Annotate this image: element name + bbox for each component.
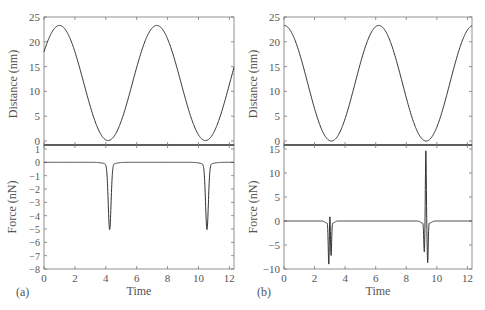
x-tick-label: 0 — [41, 272, 47, 284]
y-tick-label: 15 — [269, 143, 281, 155]
distance-axes-frame — [44, 17, 234, 145]
x-tick-label: 12 — [224, 272, 235, 284]
y-tick-label: 0 — [275, 215, 281, 227]
y-tick-label: 1 — [35, 144, 40, 155]
panel-label: (b) — [257, 285, 271, 299]
panel-a: 024681012051015202510−1−2−3−4−5−6−7−8Dis… — [5, 11, 235, 299]
distance-curve — [44, 25, 234, 140]
distance-axis-label: Distance (nm) — [6, 50, 20, 118]
y-tick-label: −3 — [29, 197, 40, 208]
time-axis-label: Time — [127, 284, 152, 298]
x-tick-label: 10 — [431, 272, 443, 284]
x-tick-label: 4 — [342, 272, 348, 284]
panel-label: (a) — [16, 285, 29, 299]
figure: 024681012051015202510−1−2−3−4−5−6−7−8Dis… — [0, 0, 485, 310]
y-tick-label: −2 — [29, 184, 40, 195]
x-tick-label: 8 — [165, 272, 171, 284]
y-tick-label: 5 — [35, 110, 41, 122]
x-tick-label: 0 — [281, 272, 287, 284]
y-tick-label: −1 — [29, 171, 40, 182]
y-tick-label: −5 — [29, 224, 40, 235]
y-tick-label: 0 — [35, 157, 40, 168]
distance-curve — [284, 25, 472, 141]
x-tick-label: 8 — [404, 272, 410, 284]
y-tick-label: −4 — [29, 211, 40, 222]
y-tick-label: −6 — [29, 237, 40, 248]
y-tick-label: 15 — [269, 61, 281, 73]
distance-axis-label: Distance (nm) — [246, 50, 260, 118]
force-curve — [44, 162, 234, 229]
y-tick-label: 5 — [275, 191, 281, 203]
time-axis-label: Time — [366, 284, 391, 298]
x-tick-label: 6 — [134, 272, 140, 284]
y-tick-label: 5 — [275, 110, 281, 122]
y-tick-label: 10 — [269, 85, 281, 97]
x-tick-label: 12 — [462, 272, 473, 284]
y-tick-label: −7 — [29, 251, 40, 262]
y-tick-label: −10 — [263, 263, 281, 275]
x-tick-label: 2 — [72, 272, 78, 284]
y-tick-label: 10 — [269, 167, 281, 179]
y-tick-label: 25 — [269, 11, 281, 23]
x-tick-label: 6 — [373, 272, 379, 284]
y-tick-label: 10 — [29, 85, 41, 97]
x-tick-label: 4 — [103, 272, 109, 284]
force-axis-label: Force (nN) — [246, 181, 260, 234]
y-tick-label: 25 — [29, 11, 41, 23]
force-axis-label: Force (nN) — [5, 181, 19, 234]
force-curve — [284, 151, 472, 264]
y-tick-label: 20 — [29, 36, 41, 48]
distance-axes-frame — [284, 17, 472, 145]
y-tick-label: −8 — [29, 264, 40, 275]
x-tick-label: 10 — [193, 272, 205, 284]
y-tick-label: −5 — [268, 239, 280, 251]
force-axes-frame — [284, 145, 472, 269]
x-tick-label: 2 — [312, 272, 318, 284]
y-tick-label: 20 — [269, 36, 281, 48]
y-tick-label: 15 — [29, 61, 41, 73]
panel-b: 0246810120510152025−10−5051015Distance (… — [246, 11, 473, 299]
